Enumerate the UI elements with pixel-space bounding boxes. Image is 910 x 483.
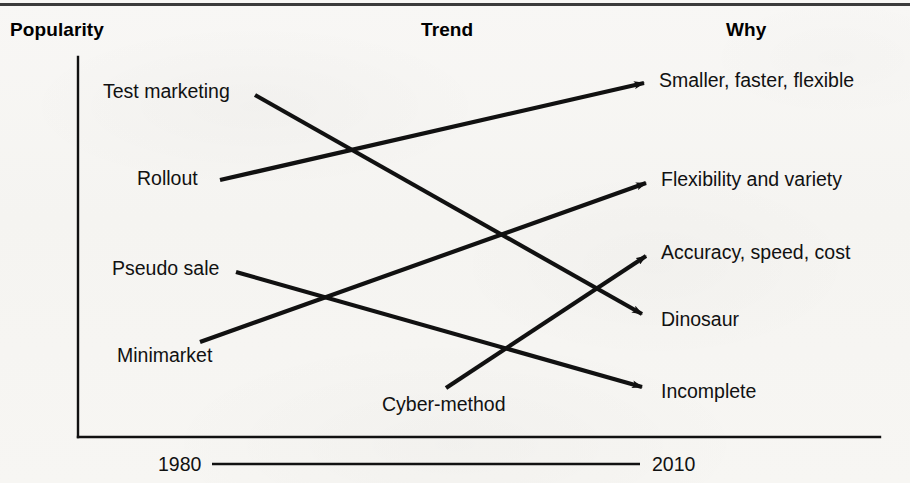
trend-line-pseudo-sale-to-incomplete	[236, 272, 642, 387]
trend-line-rollout-to-smaller-faster-flexible	[220, 83, 644, 180]
trend-line-minimarket-to-flexibility-and-variety	[200, 183, 646, 342]
node-label-dinosaur: Dinosaur	[661, 310, 739, 330]
trend-line-group	[200, 83, 646, 388]
node-label-incomplete: Incomplete	[661, 382, 756, 402]
node-label-smaller-faster-flexible: Smaller, faster, flexible	[659, 71, 854, 91]
axis-label-start-year: 1980	[158, 455, 201, 475]
node-label-pseudo-sale: Pseudo sale	[112, 259, 219, 279]
node-label-cyber-method: Cyber-method	[382, 395, 506, 415]
trend-line-cyber-method-to-accuracy-speed-cost	[446, 256, 646, 388]
node-label-accuracy-speed-cost: Accuracy, speed, cost	[661, 243, 850, 263]
node-label-flexibility-and-variety: Flexibility and variety	[661, 170, 842, 190]
axis-label-end-year: 2010	[652, 455, 695, 475]
node-label-rollout: Rollout	[137, 169, 198, 189]
node-label-minimarket: Minimarket	[117, 346, 212, 366]
trend-diagram-figure: Popularity Trend Why Test marketing Roll…	[0, 0, 910, 483]
node-label-test-marketing: Test marketing	[103, 82, 230, 102]
